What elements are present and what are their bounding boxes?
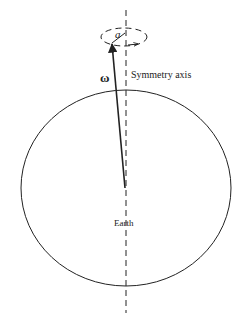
omega-vector-arrow — [112, 44, 125, 188]
earth-outline — [21, 90, 231, 286]
label-a: a — [115, 28, 121, 40]
label-earth: Earth — [114, 218, 134, 228]
precession-circle — [101, 28, 147, 46]
label-omega: ω — [100, 70, 110, 85]
label-symmetry-axis: Symmetry axis — [131, 69, 191, 80]
earth-precession-diagram: a ω Symmetry axis Earth — [0, 0, 247, 321]
